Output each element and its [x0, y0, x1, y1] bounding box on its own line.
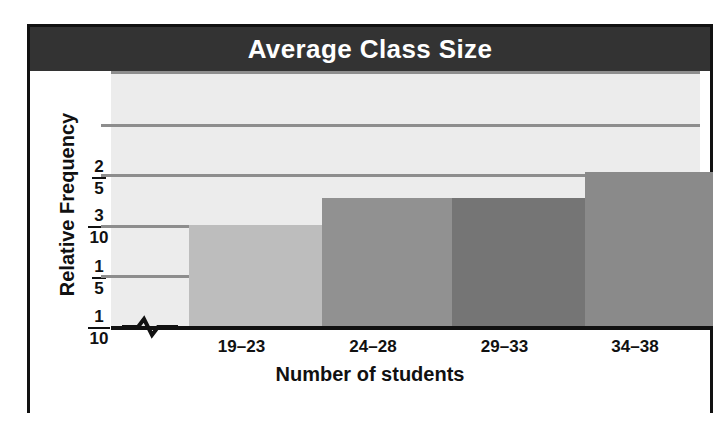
fraction-2-5: 2 5: [92, 158, 105, 197]
figure-frame: Average Class Size Relative Frequency 2 …: [27, 24, 713, 413]
x-axis-title: Number of students: [30, 363, 710, 386]
y-tick-mark-1-10: [101, 275, 111, 278]
y-axis-title: Relative Frequency: [56, 105, 79, 305]
plot-area: [111, 71, 700, 326]
bar-34-38: [585, 172, 713, 326]
fraction-1-10: 1 10: [88, 308, 111, 347]
bar-29-33: [452, 198, 585, 326]
gridline-top: [111, 71, 700, 74]
chart-title: Average Class Size: [248, 34, 493, 65]
title-banner: Average Class Size: [30, 27, 710, 71]
y-tick-mark-2-5: [101, 124, 111, 127]
x-tick-label-2: 29–33: [438, 337, 571, 357]
x-tick-label-3: 34–38: [571, 337, 699, 357]
bar-19-23: [189, 225, 322, 326]
x-tick-label-0: 19–23: [175, 337, 308, 357]
x-axis-line: [111, 326, 713, 330]
y-tick-mark-1-5: [101, 225, 111, 228]
x-tick-label-1: 24–28: [308, 337, 438, 357]
gridline-2-5: [111, 124, 700, 127]
axis-break-icon: [122, 314, 178, 340]
chart-body: Relative Frequency 2 5 3 10 1 5 1 10: [30, 71, 710, 413]
bar-24-28: [322, 198, 452, 326]
y-tick-mark-3-10: [101, 174, 111, 177]
